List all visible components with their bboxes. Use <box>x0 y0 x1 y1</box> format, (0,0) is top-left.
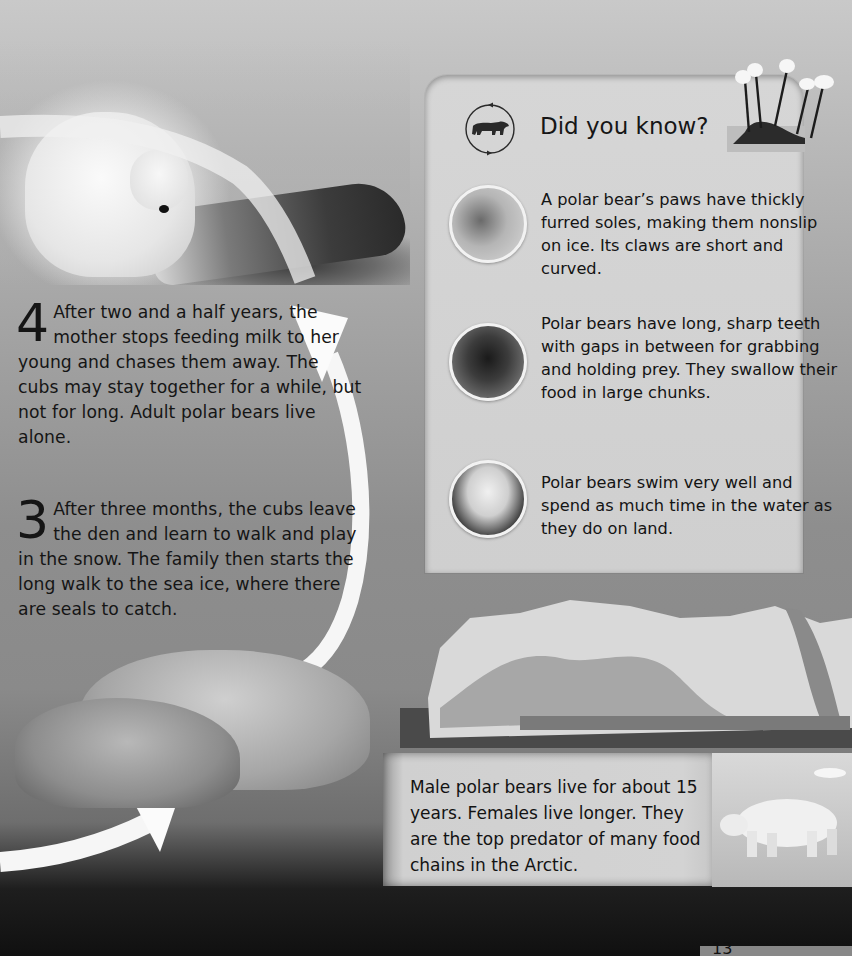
step-4-text-block: 4 After two and a half years, the mother… <box>18 300 363 450</box>
fact-teeth-text: Polar bears have long, sharp teeth with … <box>541 312 841 404</box>
polar-bear-cycle-icon <box>463 102 517 156</box>
step-description: After two and a half years, the mother s… <box>18 302 361 447</box>
fact-swimming-text: Polar bears swim very well and spend as … <box>541 471 841 540</box>
swimming-bear-photo <box>449 460 527 538</box>
iceberg-photo <box>400 588 852 748</box>
paw-photo <box>449 185 527 263</box>
did-you-know-title: Did you know? <box>540 113 709 139</box>
page-number: 13 <box>712 942 732 956</box>
step-3-text-block: 3 After three months, the cubs leave the… <box>18 497 363 622</box>
arctic-flower-image <box>727 58 840 152</box>
cub-head-image <box>130 150 188 210</box>
cub-nose <box>159 205 169 213</box>
teeth-photo <box>449 323 527 401</box>
walking-bear-photo <box>712 753 852 887</box>
lifespan-fact-text: Male polar bears live for about 15 years… <box>410 774 710 878</box>
step-number: 4 <box>16 302 49 344</box>
step-description: After three months, the cubs leave the d… <box>18 499 357 619</box>
fact-paws-text: A polar bear’s paws have thickly furred … <box>541 188 841 280</box>
step-number: 3 <box>16 499 49 541</box>
